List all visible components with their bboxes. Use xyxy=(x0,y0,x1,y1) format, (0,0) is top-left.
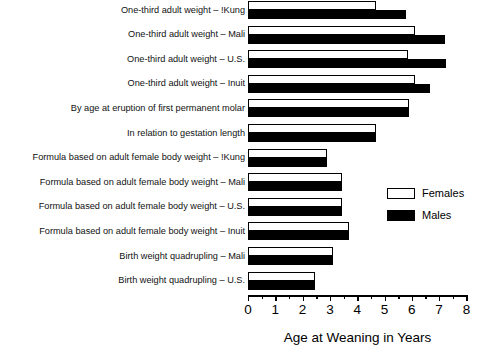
bar-females xyxy=(248,272,315,281)
bar-males xyxy=(248,108,409,117)
bar-group xyxy=(248,124,468,142)
x-tick-minor xyxy=(262,295,263,299)
x-tick-label: 7 xyxy=(429,302,449,317)
bar-group xyxy=(248,1,468,19)
bar-males xyxy=(248,10,406,19)
x-tick-major xyxy=(385,295,386,301)
bar-females xyxy=(248,50,408,59)
category-label: One-third adult weight – Mali xyxy=(128,29,245,39)
bar-females xyxy=(248,124,376,133)
x-tick-label: 2 xyxy=(293,302,313,317)
bar-group xyxy=(248,99,468,117)
bar-females xyxy=(248,99,409,108)
bar-females xyxy=(248,173,342,182)
bar-males xyxy=(248,35,445,44)
legend-label-females: Females xyxy=(422,187,464,199)
bar-females xyxy=(248,26,415,35)
legend-label-males: Males xyxy=(422,209,451,221)
x-tick-label: 6 xyxy=(402,302,422,317)
category-label: Birth weight quadrupling – U.S. xyxy=(118,275,245,285)
bar-males xyxy=(248,256,333,265)
bar-males xyxy=(248,281,315,290)
category-label: Birth weight quadrupling – Mali xyxy=(119,251,245,261)
category-label: Formula based on adult female body weigh… xyxy=(33,152,245,162)
bar-females xyxy=(248,222,349,231)
x-tick-label: 1 xyxy=(265,302,285,317)
weaning-age-bar-chart: 012345678 Age at Weaning in Years One-th… xyxy=(0,0,478,354)
category-label: Formula based on adult female body weigh… xyxy=(39,201,245,211)
category-label: One-third adult weight – !Kung xyxy=(121,5,245,15)
x-tick-major xyxy=(412,295,413,301)
bar-males xyxy=(248,207,342,216)
x-axis-title: Age at Weaning in Years xyxy=(248,330,467,345)
category-label: In relation to gestation length xyxy=(127,128,245,138)
x-tick-minor xyxy=(425,295,426,299)
x-tick-major xyxy=(330,295,331,301)
bar-females xyxy=(248,75,415,84)
legend-item-females: Females xyxy=(387,186,464,200)
category-label: By age at eruption of first permanent mo… xyxy=(71,103,245,113)
legend-swatch-males-icon xyxy=(387,210,415,221)
bar-females xyxy=(248,1,376,10)
bar-males xyxy=(248,158,327,167)
bar-females xyxy=(248,198,342,207)
bar-group xyxy=(248,50,468,68)
x-tick-major xyxy=(439,295,440,301)
x-tick-minor xyxy=(316,295,317,299)
bar-group xyxy=(248,272,468,290)
bar-females xyxy=(248,247,333,256)
x-tick-minor xyxy=(453,295,454,299)
x-tick-major xyxy=(466,295,467,301)
bar-group xyxy=(248,75,468,93)
bar-males xyxy=(248,182,342,191)
bar-females xyxy=(248,149,327,158)
x-tick-major xyxy=(303,295,304,301)
x-tick-major xyxy=(248,295,249,301)
x-tick-major xyxy=(275,295,276,301)
legend-swatch-females-icon xyxy=(387,188,415,199)
legend-item-males: Males xyxy=(387,208,464,222)
x-tick-label: 8 xyxy=(456,302,476,317)
bar-group xyxy=(248,149,468,167)
bar-group xyxy=(248,26,468,44)
bar-males xyxy=(248,231,349,240)
bar-group xyxy=(248,247,468,265)
category-label: One-third adult weight – U.S. xyxy=(127,54,245,64)
x-tick-label: 4 xyxy=(347,302,367,317)
category-label: One-third adult weight – Inuit xyxy=(128,78,245,88)
x-tick-minor xyxy=(344,295,345,299)
legend: Females Males xyxy=(387,186,464,230)
x-tick-label: 0 xyxy=(238,302,258,317)
category-label: Formula based on adult female body weigh… xyxy=(40,177,245,187)
bar-males xyxy=(248,133,376,142)
x-tick-label: 5 xyxy=(375,302,395,317)
category-label: Formula based on adult female body weigh… xyxy=(39,226,245,236)
x-tick-major xyxy=(357,295,358,301)
bar-males xyxy=(248,84,430,93)
x-tick-minor xyxy=(398,295,399,299)
x-tick-minor xyxy=(289,295,290,299)
x-tick-label: 3 xyxy=(320,302,340,317)
bar-males xyxy=(248,59,446,68)
x-tick-minor xyxy=(371,295,372,299)
